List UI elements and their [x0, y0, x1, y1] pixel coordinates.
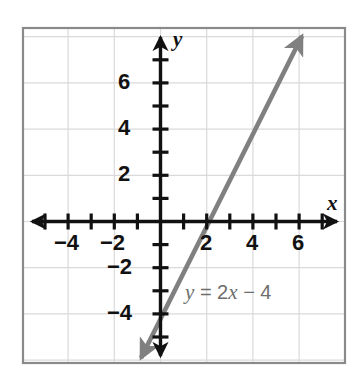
- equation-annotation: y = 2x − 4: [185, 282, 272, 303]
- x-axis-label: x: [327, 193, 338, 214]
- y-tick-label-neg2: −2: [107, 256, 132, 278]
- plot-background: [23, 28, 345, 363]
- y-tick-label-6: 6: [118, 71, 130, 93]
- equation-coefficient: = 2: [194, 281, 228, 303]
- graph-figure: y x 6 4 2 −2 −4 −4 −2 2 4 6 y = 2x − 4: [0, 0, 356, 378]
- x-tick-label-2: 2: [200, 232, 212, 254]
- x-tick-label-6: 6: [292, 232, 304, 254]
- x-tick-label-4: 4: [246, 232, 258, 254]
- x-tick-label-neg2: −2: [100, 232, 125, 254]
- x-tick-label-neg4: −4: [54, 232, 79, 254]
- y-tick-label-neg4: −4: [107, 302, 132, 324]
- equation-lhs: y: [185, 280, 194, 304]
- equation-constant: − 4: [238, 281, 272, 303]
- y-axis-label: y: [173, 29, 182, 50]
- y-tick-label-4: 4: [118, 117, 130, 139]
- equation-variable: x: [228, 280, 237, 304]
- y-tick-label-2: 2: [118, 163, 130, 185]
- coordinate-plane-graph: [0, 0, 356, 378]
